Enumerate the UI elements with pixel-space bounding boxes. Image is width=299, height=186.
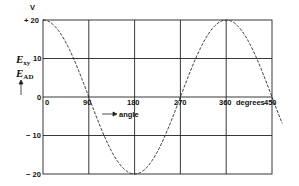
y-tick-0: 0 bbox=[37, 93, 41, 102]
x-tick-90: 90 bbox=[83, 98, 91, 107]
x-tick-450: 450 bbox=[264, 98, 277, 107]
x-tick-360: 360 bbox=[219, 98, 232, 107]
y-tick-20: + 20 bbox=[24, 16, 39, 25]
up-arrow-icon bbox=[19, 80, 23, 95]
x-tick-0: 0 bbox=[45, 98, 49, 107]
y-tick-10: 10 bbox=[33, 54, 41, 63]
sine-wave-chart: V + 20 10 0 − 10 − 20 Exy EAD 0 90 180 2… bbox=[0, 0, 299, 186]
y-tick-neg10: − 10 bbox=[26, 131, 41, 140]
ylabel-exy: Exy bbox=[15, 53, 31, 67]
x-tick-180: 180 bbox=[127, 98, 140, 107]
y-unit-label: V bbox=[30, 3, 35, 12]
right-arrow-icon bbox=[102, 112, 117, 116]
y-tick-neg20: − 20 bbox=[26, 170, 41, 179]
ylabel-ead: EAD bbox=[15, 67, 33, 81]
angle-annotation: angle bbox=[119, 110, 139, 119]
x-axis-unit-degrees: degrees bbox=[236, 98, 265, 107]
grid bbox=[43, 20, 272, 174]
x-tick-270: 270 bbox=[174, 98, 187, 107]
